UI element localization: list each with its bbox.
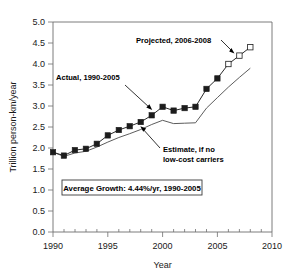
series-projected-line xyxy=(217,47,250,78)
annotation-estimate-leader xyxy=(142,128,160,148)
data-point-1997 xyxy=(127,124,132,129)
y-tick-label-4: 2.0 xyxy=(32,143,45,153)
y-tick-label-1: 0.5 xyxy=(32,206,45,216)
data-point-1991 xyxy=(61,153,66,158)
data-point-2003 xyxy=(193,104,198,109)
annotation-projected-label: Projected, 2006-2008 xyxy=(136,36,211,45)
data-point-2002 xyxy=(182,105,187,110)
annotation-estimate-label-line2: low-cost carriers xyxy=(163,155,224,164)
data-point-1999 xyxy=(149,113,154,118)
x-tick-label-1990: 1990 xyxy=(43,241,63,251)
y-axis-tick-labels: 0.0 0.5 1.0 1.5 2.0 2.5 3.0 3.5 4.0 4.5 … xyxy=(32,17,45,237)
data-point-1994 xyxy=(94,141,99,146)
data-point-2004 xyxy=(204,86,209,91)
data-point-2006 xyxy=(226,61,231,66)
growth-annotation-box: Average Growth: 4.44%/yr, 1990-2005 xyxy=(62,180,202,195)
data-point-1992 xyxy=(72,147,77,152)
x-tick-label-1995: 1995 xyxy=(98,241,118,251)
y-tick-label-10: 5.0 xyxy=(32,17,45,27)
x-axis-tick-labels: 1990 1995 2000 2005 2010 xyxy=(43,241,282,251)
x-tick-label-2000: 2000 xyxy=(153,241,173,251)
annotation-actual-label: Actual, 1990-2005 xyxy=(56,73,121,82)
y-tick-label-9: 4.5 xyxy=(32,38,45,48)
chart-canvas: 0.0 0.5 1.0 1.5 2.0 2.5 3.0 3.5 4.0 4.5 … xyxy=(0,0,295,274)
annotation-estimate-label-line1: Estimate, if no xyxy=(163,145,215,154)
y-axis-ticks xyxy=(48,22,53,232)
data-point-1993 xyxy=(83,146,88,151)
data-point-2000 xyxy=(160,104,165,109)
data-point-1990 xyxy=(50,150,55,155)
y-tick-label-3: 1.5 xyxy=(32,164,45,174)
data-point-1998 xyxy=(138,119,143,124)
y-tick-label-5: 2.5 xyxy=(32,122,45,132)
chart-container: 0.0 0.5 1.0 1.5 2.0 2.5 3.0 3.5 4.0 4.5 … xyxy=(0,0,295,274)
y-tick-label-7: 3.5 xyxy=(32,80,45,90)
data-point-2007 xyxy=(237,53,242,58)
y-axis-title: Trillion person-km/year xyxy=(8,81,18,172)
growth-annotation-label: Average Growth: 4.44%/yr, 1990-2005 xyxy=(63,184,201,193)
data-point-1996 xyxy=(116,127,121,132)
y-tick-label-0: 0.0 xyxy=(32,227,45,237)
y-tick-label-6: 3.0 xyxy=(32,101,45,111)
data-point-1995 xyxy=(105,133,110,138)
data-point-2001 xyxy=(171,108,176,113)
series-projected-markers xyxy=(226,45,253,67)
y-tick-label-8: 4.0 xyxy=(32,59,45,69)
x-tick-label-2005: 2005 xyxy=(207,241,227,251)
x-axis-title: Year xyxy=(154,260,172,270)
annotation-actual-leader xyxy=(125,85,150,108)
x-tick-label-2010: 2010 xyxy=(262,241,282,251)
data-point-2008 xyxy=(248,45,253,50)
data-point-2005 xyxy=(215,76,220,81)
x-axis-major-ticks xyxy=(53,232,272,237)
y-tick-label-2: 1.0 xyxy=(32,185,45,195)
